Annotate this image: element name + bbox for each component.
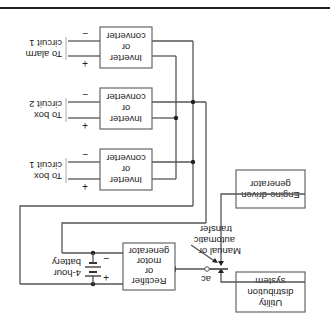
utility-block: Utility distribution system xyxy=(236,272,305,312)
battery-minus-sign: − xyxy=(103,253,109,264)
inverter-2-label-2: or xyxy=(122,103,130,114)
inverter-2-plus: + xyxy=(82,120,88,131)
rectifier-block: Rectifier or motor generator xyxy=(123,243,175,290)
battery-label-1: 4-hour xyxy=(54,268,81,279)
inverter-3-label-1: Inverter xyxy=(110,53,142,64)
inverter-3-output-2: circuit 1 xyxy=(29,38,62,49)
battery-plus-sign: + xyxy=(103,272,109,283)
inverter-2-minus: − xyxy=(82,89,88,100)
utility-label-1: Utility xyxy=(259,298,282,309)
inverter-2-output-2: circuit 2 xyxy=(29,99,62,110)
inverter-1-minus: − xyxy=(82,149,88,160)
power-supply-diagram: Utility distribution system Engine-drive… xyxy=(0,0,336,334)
inverter-1-label-2: or xyxy=(122,164,130,175)
engine-label-2: generator xyxy=(250,179,291,190)
engine-generator-block: Engine-driven generator xyxy=(236,170,305,208)
rectifier-label-1: Rectifier xyxy=(132,276,167,287)
inverter-1-label-1: Inverter xyxy=(110,175,142,186)
diagram-canvas: Utility distribution system Engine-drive… xyxy=(0,0,336,334)
rectifier-label-2: or xyxy=(145,266,153,277)
battery: + − 4-hour battery xyxy=(20,251,123,286)
utility-label-2: distribution xyxy=(248,287,294,298)
inverter-2-label-1: Inverter xyxy=(110,114,142,125)
inverter-2-label-3: converter xyxy=(106,92,146,103)
rectifier-label-3: motor xyxy=(137,256,161,267)
inverter-1-label-3: converter xyxy=(106,153,146,164)
inverter-1-output-1: To box xyxy=(34,171,62,182)
ac-label: ac xyxy=(201,274,211,285)
inverter-1-plus: + xyxy=(82,181,88,192)
inverter-3-label-3: converter xyxy=(106,31,146,42)
engine-label-1: Engine-driven xyxy=(241,190,300,201)
rectifier-label-4: generator xyxy=(129,246,170,257)
transfer-label-1: Manual or xyxy=(199,246,241,257)
inverter-2-output-1: To box xyxy=(34,110,62,121)
transfer-label-2: automatic xyxy=(194,235,235,246)
transfer-label-3: transfer xyxy=(200,224,232,235)
inverter-1: Inverter or converter + − To box circuit… xyxy=(29,149,152,192)
inverter-3-output-1: To alarm xyxy=(25,49,62,60)
inverter-1-output-2: circuit 1 xyxy=(29,160,62,171)
inverter-3-minus: − xyxy=(82,28,88,39)
inverter-2: Inverter or converter + − To box circuit… xyxy=(29,88,152,131)
inverter-3-plus: + xyxy=(82,58,88,69)
inverter-3: Inverter or converter + − To alarm circu… xyxy=(25,27,152,69)
inverter-3-label-2: or xyxy=(122,42,130,53)
battery-label-2: battery xyxy=(52,257,81,268)
